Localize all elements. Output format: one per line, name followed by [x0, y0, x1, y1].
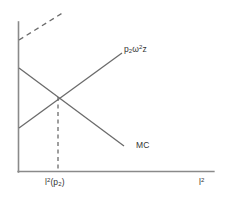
supply-curve-label: p2ω2z: [124, 45, 147, 54]
supply-label-tail: z: [142, 44, 146, 54]
supply-label-omega: ω: [132, 44, 139, 54]
mc-curve-label: MC: [136, 141, 149, 150]
xaxis-sup: 2: [201, 177, 204, 183]
x-axis-tick-label: l2(p2): [45, 178, 65, 187]
mc-curve-line: [19, 68, 124, 146]
supply-curve-dashed-extension: [19, 12, 64, 40]
plot-canvas: [0, 0, 229, 202]
xtick-close: ): [62, 177, 65, 187]
supply-curve-line: [19, 53, 122, 128]
economics-diagram: p2ω2z MC l2(p2) l2: [0, 0, 229, 202]
x-axis-label: l2: [199, 178, 204, 187]
